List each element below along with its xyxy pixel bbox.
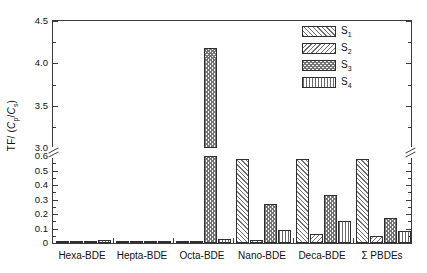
legend-label-text: S	[341, 59, 348, 70]
y-axis-tick-label: 0.4	[22, 180, 48, 190]
x-axis-tick	[293, 238, 294, 243]
y-axis-tick-right	[408, 221, 411, 222]
legend-label-text: S	[341, 76, 348, 87]
bar	[398, 231, 411, 243]
bar	[278, 230, 291, 243]
bar-group	[233, 21, 293, 243]
y-axis-tick-label: 3.5	[22, 101, 48, 111]
legend-label: S4	[341, 76, 352, 89]
bar-group	[53, 21, 113, 243]
y-axis-tick-right	[406, 185, 411, 186]
y-axis-tick-right	[408, 42, 411, 43]
bar	[204, 156, 217, 243]
y-axis-tick-right	[408, 192, 411, 193]
x-axis-label: Octa-BDE	[179, 250, 224, 261]
y-axis-tick-right	[406, 214, 411, 215]
y-axis-tick-right	[406, 21, 411, 22]
y-axis-tick	[53, 63, 58, 64]
legend-label-text: S	[341, 25, 348, 36]
y-axis-tick-right	[406, 200, 411, 201]
y-axis-tick-right	[406, 171, 411, 172]
x-axis-label: Hexa-BDE	[58, 250, 105, 261]
x-axis-label: Nano-BDE	[238, 250, 286, 261]
y-axis-tick-right	[406, 243, 411, 244]
y-axis-tick	[53, 106, 58, 107]
y-axis-title-c1: C	[7, 121, 18, 128]
x-axis-tick	[353, 238, 354, 243]
y-axis-tick	[53, 214, 58, 215]
y-axis-tick	[53, 163, 56, 164]
y-axis-tick-label: 4.0	[22, 59, 48, 69]
y-axis-tick-right	[408, 163, 411, 164]
bar	[310, 234, 323, 243]
bar	[384, 218, 397, 243]
y-axis-tick-label: 0.3	[22, 195, 48, 205]
legend-label-sub: 2	[348, 48, 352, 55]
y-axis-tick	[53, 236, 56, 237]
bar	[98, 240, 111, 243]
y-axis-tick	[53, 85, 56, 86]
y-axis-tick	[53, 192, 56, 193]
y-axis-title-suffix: )	[7, 99, 18, 103]
y-axis-tick-right	[408, 178, 411, 179]
y-axis-tick-label: 0.2	[22, 209, 48, 219]
y-axis-tick-right	[408, 85, 411, 86]
y-axis-tick	[53, 185, 58, 186]
y-axis-tick-right	[408, 127, 411, 128]
bar	[190, 241, 203, 243]
legend-label-sub: 1	[348, 31, 352, 38]
bar	[116, 241, 129, 243]
legend-label: S1	[341, 25, 352, 38]
bar	[84, 241, 97, 243]
bar	[70, 241, 83, 243]
bar	[338, 221, 351, 243]
bar	[250, 240, 263, 243]
y-axis-tick	[53, 171, 58, 172]
y-axis-title-prefix: TF/ (	[7, 129, 18, 151]
y-axis-tick	[53, 207, 56, 208]
bar	[144, 241, 157, 243]
bar	[236, 159, 249, 243]
y-axis-tick	[53, 243, 58, 244]
bar	[218, 239, 231, 243]
x-axis-tick	[113, 238, 114, 243]
y-axis-title-slash: /	[7, 114, 18, 117]
axis-break-cover	[406, 147, 415, 158]
x-axis-label: Hepta-BDE	[117, 250, 168, 261]
y-axis-tick-right	[406, 229, 411, 230]
bar	[370, 236, 383, 243]
y-axis-tick-label: 0	[22, 238, 48, 248]
bar	[296, 159, 309, 243]
y-axis-tick	[53, 21, 58, 22]
axis-break-cover	[49, 147, 58, 158]
y-axis-tick-right	[406, 106, 411, 107]
y-axis-tick-label: 4.5	[22, 16, 48, 26]
bar-group	[173, 21, 233, 243]
y-axis-tick	[53, 178, 56, 179]
legend-item: S1	[302, 24, 396, 38]
bar	[264, 204, 277, 243]
x-axis-label: Deca-BDE	[298, 250, 345, 261]
y-axis-tick	[53, 221, 56, 222]
legend-item: S4	[302, 75, 396, 89]
legend-swatch	[302, 43, 336, 54]
y-axis-tick	[53, 229, 58, 230]
y-axis-tick-labels: 00.10.20.30.40.50.63.03.54.04.5	[18, 0, 48, 273]
y-axis-tick-right	[408, 236, 411, 237]
bar-group	[113, 21, 173, 243]
x-axis-label: Σ PBDEs	[361, 250, 402, 261]
legend-label: S3	[341, 59, 352, 72]
y-axis-tick-right	[406, 63, 411, 64]
bar	[324, 195, 337, 243]
x-axis-tick	[173, 238, 174, 243]
bar	[158, 241, 171, 243]
legend-item: S3	[302, 58, 396, 72]
legend-swatch	[302, 60, 336, 71]
bar	[356, 159, 369, 243]
y-axis-tick-label: 3.0	[22, 143, 48, 153]
legend-label-text: S	[341, 42, 348, 53]
y-axis-title-c2: C	[7, 107, 18, 114]
legend-label: S2	[341, 42, 352, 55]
chart-figure: TF/ (Cp/Cs) 00.10.20.30.40.50.63.03.54.0…	[0, 0, 427, 273]
y-axis-tick-label: 0.5	[22, 166, 48, 176]
